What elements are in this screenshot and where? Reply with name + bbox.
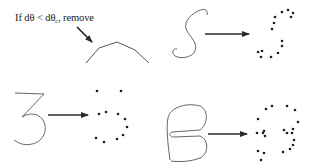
sample-point: [96, 90, 99, 93]
sample-point: [274, 16, 277, 19]
sample-point: [297, 121, 300, 124]
angle-removal-panel: [77, 27, 149, 63]
sample-point: [122, 134, 125, 137]
sample-point: [282, 151, 285, 154]
handwritten-3-stroke: [14, 93, 45, 145]
sample-point: [281, 45, 284, 48]
pointer-arrow-icon: [77, 27, 92, 42]
sample-point: [273, 22, 276, 25]
sample-point: [265, 108, 268, 111]
sample-point: [124, 118, 127, 121]
sample-point: [98, 113, 101, 116]
sample-point: [277, 52, 280, 55]
sample-point: [287, 9, 290, 12]
handwritten-s-stroke: [173, 9, 207, 57]
sample-point: [126, 126, 129, 129]
sample-point: [294, 109, 297, 112]
sample-point: [281, 40, 284, 43]
sample-point: [260, 56, 263, 59]
sample-point: [116, 138, 119, 141]
sample-point: [105, 111, 108, 114]
sample-point: [264, 135, 267, 138]
sample-point: [290, 16, 293, 19]
sample-point: [271, 105, 274, 108]
sample-point: [263, 152, 266, 155]
s-panel: [173, 9, 294, 59]
b-point-set: [256, 105, 300, 162]
s-point-set: [257, 9, 295, 59]
sample-point: [271, 28, 274, 31]
sample-point: [289, 148, 292, 151]
sample-point: [286, 105, 289, 108]
sample-point: [292, 12, 295, 15]
sample-point: [103, 141, 106, 144]
three-point-set: [95, 90, 129, 144]
sample-point: [291, 132, 294, 135]
sample-point: [263, 130, 266, 133]
three-panel: [14, 90, 128, 145]
sample-point: [286, 132, 289, 135]
sample-point: [270, 56, 273, 59]
sample-point: [256, 132, 259, 135]
stroke-to-points-diagram: [0, 0, 311, 167]
sample-point: [293, 139, 296, 142]
sample-point: [292, 144, 295, 147]
sample-point: [95, 137, 98, 140]
sample-point: [292, 128, 295, 131]
sample-point: [281, 11, 284, 14]
sample-point: [283, 129, 286, 132]
b-panel: [167, 105, 299, 162]
sample-point: [261, 50, 264, 53]
angle-polyline: [86, 42, 149, 63]
sample-point: [257, 118, 260, 121]
sample-point: [257, 150, 260, 153]
sample-point: [257, 51, 260, 54]
sample-point: [260, 159, 263, 162]
handwritten-b-stroke: [167, 105, 207, 162]
sample-point: [120, 90, 123, 93]
sample-point: [117, 113, 120, 116]
